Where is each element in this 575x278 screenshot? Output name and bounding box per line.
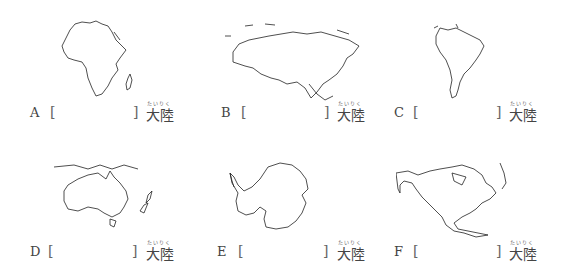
close-bracket: ] [496,243,501,259]
suffix-label: 大陸 [509,243,537,263]
answer-row-a: A [ ] たいりく 大陸 [0,101,190,125]
eurasia-map-icon [225,22,365,102]
suffix-label: 大陸 [337,104,365,124]
question-letter: D [30,244,40,259]
question-b: B [ ] たいりく 大陸 [190,0,380,139]
question-letter: A [30,105,39,120]
answer-row-f: F [ ] たいりく 大陸 [380,240,570,264]
answer-blank-f[interactable] [421,244,493,260]
open-bracket: [ [413,104,418,120]
answer-blank-c[interactable] [421,105,493,121]
question-letter: B [221,105,231,120]
open-bracket: [ [48,243,53,259]
question-letter: C [394,105,404,120]
question-a: A [ ] たいりく 大陸 [0,0,190,139]
suffix-label: 大陸 [337,243,365,263]
south-america-map-icon [432,24,494,100]
answer-row-b: B [ ] たいりく 大陸 [190,101,380,125]
open-bracket: [ [50,104,55,120]
question-letter: E [217,244,227,259]
close-bracket: ] [133,104,138,120]
answer-blank-e[interactable] [246,244,318,260]
answer-row-d: D [ ] たいりく 大陸 [0,240,190,264]
open-bracket: [ [238,243,243,259]
north-america-map-icon [396,163,508,239]
close-bracket: ] [324,104,329,120]
answer-blank-d[interactable] [56,244,128,260]
suffix-label: 大陸 [146,243,174,263]
question-f: F [ ] たいりく 大陸 [380,139,570,278]
africa-map-icon [60,18,135,98]
australia-map-icon [54,159,154,239]
suffix-label: 大陸 [509,104,537,124]
open-bracket: [ [413,243,418,259]
close-bracket: ] [496,104,501,120]
close-bracket: ] [132,243,137,259]
answer-row-c: C [ ] たいりく 大陸 [380,101,570,125]
question-letter: F [394,244,403,259]
answer-blank-a[interactable] [58,105,130,121]
close-bracket: ] [323,243,328,259]
suffix-label: 大陸 [146,104,174,124]
question-e: E [ ] たいりく 大陸 [190,139,380,278]
answer-blank-b[interactable] [249,105,321,121]
answer-row-e: E [ ] たいりく 大陸 [190,240,380,264]
question-c: C [ ] たいりく 大陸 [380,0,570,139]
question-d: D [ ] たいりく 大陸 [0,139,190,278]
antarctica-map-icon [226,161,316,237]
open-bracket: [ [241,104,246,120]
